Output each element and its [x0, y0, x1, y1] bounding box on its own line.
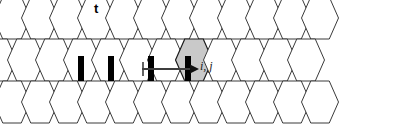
hexagonal-lattice-figure: t i, j: [0, 0, 404, 129]
hexagon-cell: [288, 39, 325, 81]
hexagon-cell: [302, 81, 339, 123]
i-j-cell-label: i, j: [200, 60, 213, 72]
t-label: t: [94, 2, 98, 15]
hexagon-cell: [302, 0, 339, 39]
hexagon-cells-group: [0, 0, 339, 123]
